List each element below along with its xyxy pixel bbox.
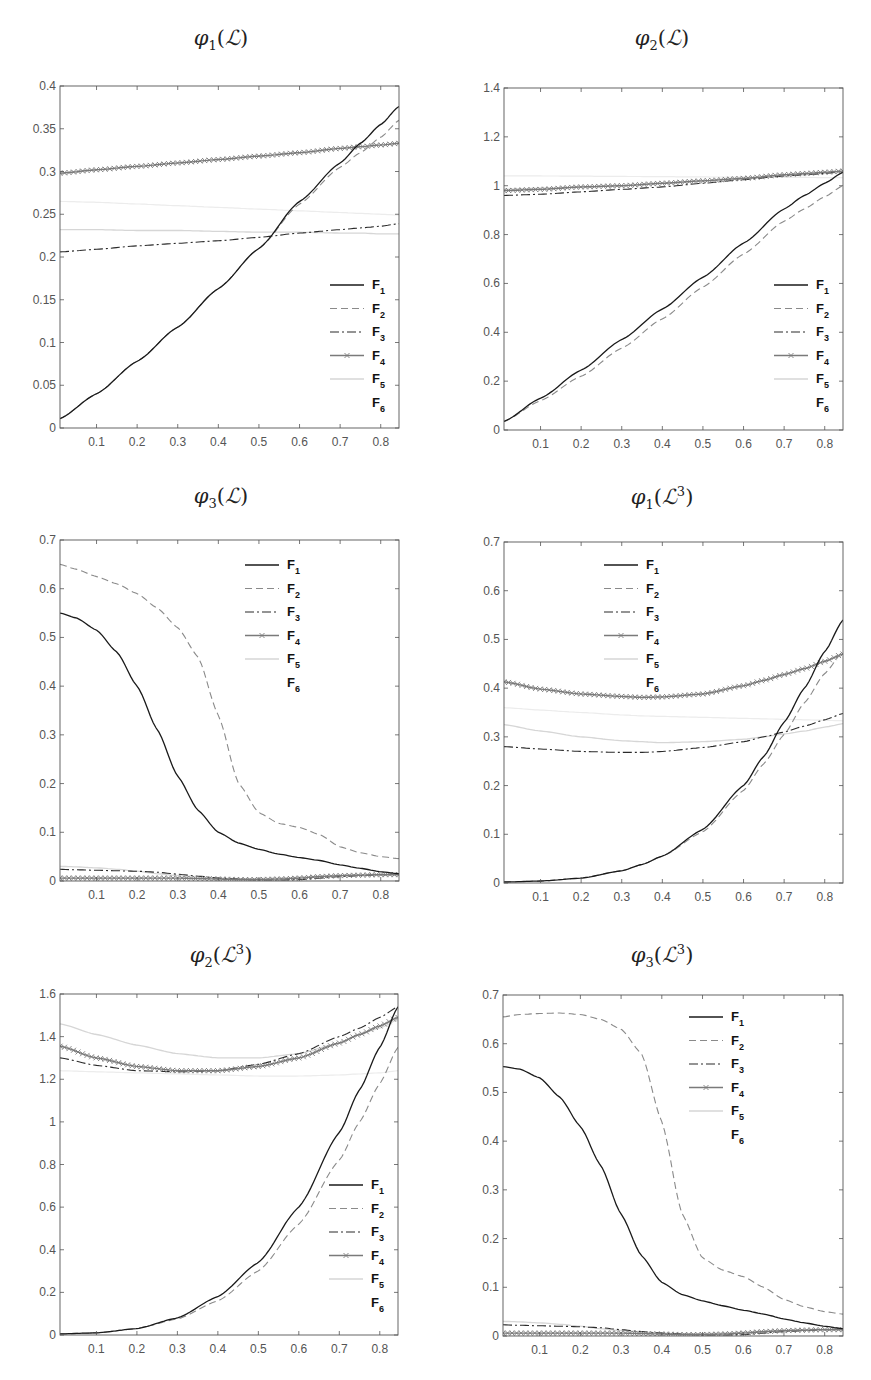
- x-tick-label: 0.7: [776, 1343, 793, 1357]
- x-tick-label: 0.2: [572, 1343, 589, 1357]
- plot-area: 0.10.20.30.40.50.60.70.800.10.20.30.40.5…: [0, 0, 871, 1380]
- y-tick-label: 0.4: [482, 1134, 499, 1148]
- y-tick-label: 0.5: [482, 1085, 499, 1099]
- y-tick-label: 0.7: [482, 988, 499, 1002]
- legend: F1F2F3F4F5F6: [689, 1009, 744, 1146]
- legend-label-F5: F5: [731, 1103, 744, 1122]
- series-group: [501, 1013, 846, 1337]
- y-tick-label: 0.1: [482, 1280, 499, 1294]
- x-tick-label: 0.4: [653, 1343, 670, 1357]
- y-tick-label: 0: [492, 1329, 499, 1343]
- x-tick-label: 0.6: [735, 1343, 752, 1357]
- y-tick-label: 0.6: [482, 1037, 499, 1051]
- x-tick-label: 0.8: [816, 1343, 833, 1357]
- x-tick-label: 0.5: [694, 1343, 711, 1357]
- x-tick-label: 0.3: [613, 1343, 630, 1357]
- legend-label-F3: F3: [731, 1056, 744, 1075]
- legend-label-F2: F2: [731, 1033, 744, 1052]
- y-tick-label: 0.2: [482, 1232, 499, 1246]
- x-tick-label: 0.1: [531, 1343, 548, 1357]
- legend-label-F6: F6: [731, 1127, 744, 1146]
- axes-frame: [503, 995, 843, 1336]
- legend-label-F1: F1: [731, 1009, 744, 1028]
- y-tick-label: 0.3: [482, 1183, 499, 1197]
- series-line-F1: [503, 1067, 843, 1329]
- series-line-F2: [503, 1013, 843, 1314]
- legend-label-F4: F4: [731, 1080, 744, 1099]
